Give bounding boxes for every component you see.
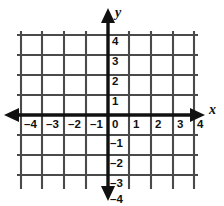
- y-tick-label-neg2: –2: [110, 157, 123, 169]
- y-tick-label-1: 1: [112, 95, 119, 107]
- y-tick-label-neg4: –4: [110, 193, 123, 205]
- y-tick-label-neg1: –1: [110, 137, 123, 149]
- x-axis-label: x: [208, 102, 216, 117]
- x-axis-tick-labels: –4 –3 –2 –1 0 1 2 3 4: [24, 118, 204, 130]
- x-tick-label-zero: 0: [112, 118, 118, 130]
- coordinate-grid-figure: –4 –3 –2 –1 0 1 2 3 4 4 3 2 1 –1 –2 –3 –…: [0, 0, 224, 206]
- y-tick-label-4: 4: [112, 35, 119, 47]
- x-tick-label-neg3: –3: [46, 118, 59, 130]
- y-axis-label: y: [113, 5, 122, 20]
- y-tick-label-2: 2: [112, 75, 118, 87]
- x-tick-label-4: 4: [197, 118, 204, 130]
- x-tick-label-1: 1: [133, 118, 140, 130]
- x-tick-label-neg1: –1: [90, 118, 103, 130]
- x-tick-label-neg2: –2: [68, 118, 81, 130]
- y-tick-label-neg3: –3: [110, 177, 123, 189]
- coordinate-plane-svg: –4 –3 –2 –1 0 1 2 3 4 4 3 2 1 –1 –2 –3 –…: [0, 0, 224, 206]
- y-tick-label-3: 3: [112, 55, 118, 67]
- x-tick-label-2: 2: [155, 118, 161, 130]
- x-tick-label-neg4: –4: [24, 118, 37, 130]
- x-tick-label-3: 3: [177, 118, 183, 130]
